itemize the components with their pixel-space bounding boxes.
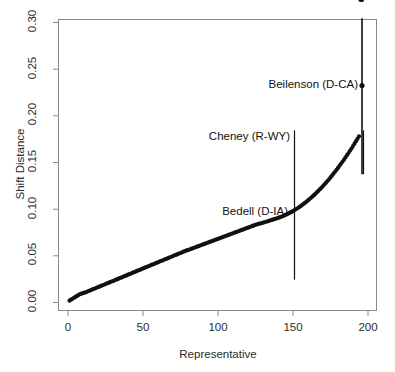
xtick-label-1: 50 bbox=[132, 321, 154, 333]
chart-figure: 0.00 0.05 0.10 0.15 0.20 0.25 0.30 0 50 … bbox=[0, 0, 395, 372]
xtick-label-3: 150 bbox=[280, 321, 306, 333]
ytick-label-0: 0.00 bbox=[26, 281, 38, 321]
y-axis-title: Shift Distance bbox=[14, 109, 26, 219]
plot-frame bbox=[59, 20, 377, 311]
plot-canvas bbox=[0, 0, 395, 372]
xtick-label-0: 0 bbox=[60, 321, 76, 333]
data-series-points bbox=[67, 0, 364, 303]
ytick-label-1: 0.05 bbox=[26, 234, 38, 274]
ytick-label-6: 0.30 bbox=[26, 1, 38, 41]
ytick-label-5: 0.25 bbox=[26, 48, 38, 88]
annotation-label-beilenson: Beilenson (D-CA) bbox=[250, 78, 358, 90]
xtick-label-2: 100 bbox=[205, 321, 231, 333]
ytick-label-3: 0.15 bbox=[26, 141, 38, 181]
xtick-label-4: 200 bbox=[355, 321, 381, 333]
annotation-points bbox=[359, 83, 364, 88]
annotation-label-bedell: Bedell (D-IA) bbox=[190, 205, 288, 217]
x-axis-ticks bbox=[68, 311, 368, 317]
annotation-label-cheney: Cheney (R-WY) bbox=[188, 130, 290, 142]
x-axis-title: Representative bbox=[158, 348, 278, 360]
ytick-label-4: 0.20 bbox=[26, 94, 38, 134]
y-axis-ticks bbox=[53, 23, 59, 303]
ytick-label-2: 0.10 bbox=[26, 188, 38, 228]
